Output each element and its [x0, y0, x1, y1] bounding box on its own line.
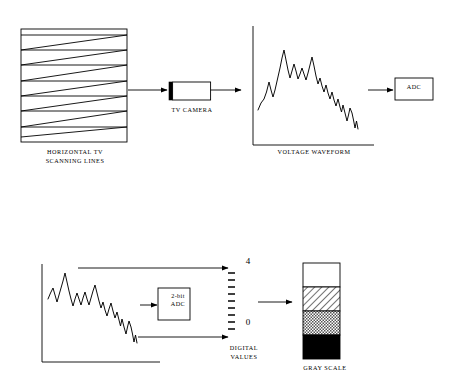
diagram-graphics: [0, 0, 449, 384]
adc-name-text: ADC: [171, 300, 185, 307]
gray-scale-bar: [303, 263, 340, 359]
label-adc-bottom: 2-bit ADC: [159, 292, 197, 308]
grayscale-band-black: [303, 335, 340, 359]
waveform-bottom-group: [42, 264, 160, 362]
grayscale-band-white: [303, 263, 340, 287]
scan-raster-group: [21, 29, 127, 142]
grayscale-band-stipple: [303, 311, 340, 335]
tv-camera-group: [169, 82, 211, 100]
label-digital-values: DIGITAL VALUES: [208, 344, 280, 361]
label-adc-top: ADC: [396, 83, 432, 91]
grayscale-band-hatch: [303, 287, 340, 311]
label-voltage-waveform: VOLTAGE WAVEFORM: [248, 148, 380, 157]
digital-value-max: 4: [240, 256, 256, 266]
diagram-canvas: HORIZONTAL TV SCANNING LINES TV CAMERA V…: [0, 0, 449, 384]
digital-values-scale: [228, 273, 235, 329]
adc-bits-text: 2-bit: [171, 292, 185, 299]
voltage-waveform-group: [253, 26, 374, 145]
label-tv-camera: TV CAMERA: [150, 106, 234, 115]
label-gray-scale: GRAY SCALE: [284, 364, 366, 373]
digital-value-min: 0: [240, 317, 256, 327]
label-scanning-lines: HORIZONTAL TV SCANNING LINES: [14, 148, 136, 165]
